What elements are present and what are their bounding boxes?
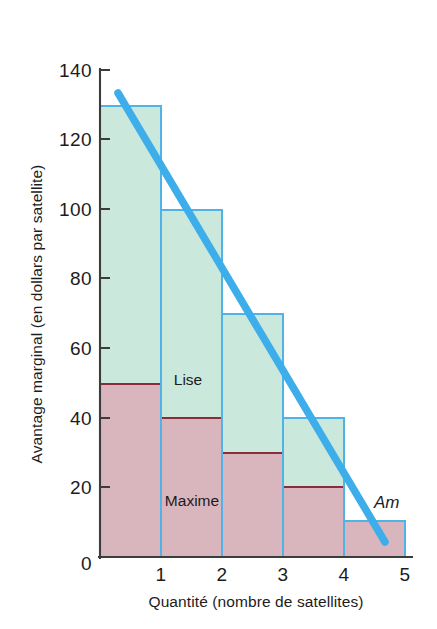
x-axis-title: Quantité (nombre de satellites) — [148, 593, 363, 610]
y-tick-label-80: 80 — [70, 268, 92, 289]
curve-label-am: Am — [373, 493, 400, 512]
bar-maxime-4 — [283, 487, 344, 557]
y-axis-tick-labels: 140 120 100 80 60 40 20 0 — [59, 60, 92, 574]
bar-maxime-2 — [161, 418, 222, 557]
bar-maxime-3 — [222, 453, 283, 557]
y-tick-label-60: 60 — [70, 338, 92, 359]
x-tick-label-1: 1 — [156, 564, 167, 585]
series-label-maxime: Maxime — [165, 492, 219, 509]
x-tick-label-2: 2 — [217, 564, 228, 585]
y-tick-label-20: 20 — [70, 477, 92, 498]
x-tick-label-4: 4 — [339, 564, 350, 585]
x-tick-label-3: 3 — [278, 564, 289, 585]
series-label-lise: Lise — [174, 371, 202, 388]
marginal-benefit-chart: 140 120 100 80 60 40 20 0 1 2 3 4 5 Avan… — [0, 0, 437, 629]
y-tick-label-100: 100 — [59, 199, 92, 220]
bar-lise-3 — [222, 314, 283, 453]
bar-maxime-1 — [100, 384, 161, 557]
x-tick-label-5: 5 — [400, 564, 411, 585]
y-tick-label-140: 140 — [59, 60, 92, 81]
x-axis-tick-labels: 1 2 3 4 5 — [156, 564, 411, 585]
y-tick-label-0: 0 — [81, 553, 92, 574]
y-tick-label-120: 120 — [59, 129, 92, 150]
y-axis-title: Avantage marginal (en dollars par satell… — [28, 165, 45, 464]
chart-container: 140 120 100 80 60 40 20 0 1 2 3 4 5 Avan… — [0, 0, 437, 629]
y-tick-label-40: 40 — [70, 408, 92, 429]
